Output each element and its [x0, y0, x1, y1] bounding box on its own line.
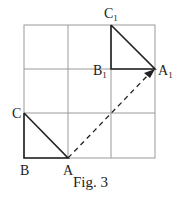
grid: [24, 25, 155, 158]
label-a1: A1: [158, 63, 173, 80]
triangle-abc: [24, 113, 68, 158]
labels: C B A C1 B1 A1 Fig. 3: [12, 6, 173, 190]
label-b1: B1: [93, 63, 107, 80]
grid-border: [24, 25, 155, 158]
label-c: C: [12, 106, 21, 121]
triangle-a1b1c1: [111, 25, 155, 69]
label-b: B: [20, 163, 29, 178]
figure-caption: Fig. 3: [73, 174, 108, 190]
translation-diagram: C B A C1 B1 A1 Fig. 3: [0, 0, 178, 198]
label-c1: C1: [104, 6, 118, 23]
